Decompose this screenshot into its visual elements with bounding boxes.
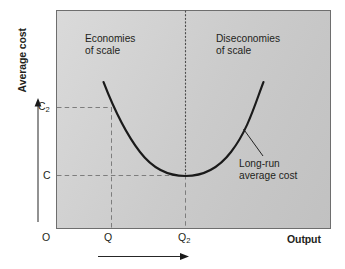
x-tick-label-q2: Q2: [178, 231, 190, 245]
y-tick-c-base: C: [43, 169, 51, 181]
annotation-long-run-average-cost: Long-runaverage cost: [239, 158, 297, 182]
y-tick-c2-base: C: [38, 100, 46, 112]
x-axis-arrow: [98, 253, 189, 260]
origin-label: O: [42, 231, 50, 243]
x-axis-title: Output: [287, 233, 321, 245]
y-tick-label-c2: C2: [38, 100, 50, 114]
annotation-economies-of-scale: Economiesof scale: [85, 33, 135, 57]
x-tick-q2-base: Q: [178, 231, 186, 243]
x-tick-q2-subscript: 2: [186, 236, 190, 245]
y-axis-title: Average cost: [16, 12, 28, 108]
y-axis-arrow: [35, 98, 42, 222]
annotation-lrac-line2: average cost: [239, 170, 297, 181]
annotation-lrac-line1: Long-run: [239, 158, 280, 169]
annotation-economies-line1: Economies: [85, 33, 135, 44]
annotation-diseconomies-of-scale: Diseconomiesof scale: [216, 33, 280, 57]
x-tick-q-base: Q: [104, 231, 112, 243]
x-tick-label-q: Q: [104, 231, 112, 243]
lrac-figure: Average cost Output O C2 C Q Q2 Economie…: [0, 0, 345, 269]
y-tick-c2-subscript: 2: [46, 105, 50, 114]
annotation-economies-line2: of scale: [85, 45, 120, 56]
annotation-diseconomies-line1: Diseconomies: [216, 33, 280, 44]
y-tick-label-c: C: [43, 169, 51, 181]
annotation-diseconomies-line2: of scale: [216, 45, 251, 56]
